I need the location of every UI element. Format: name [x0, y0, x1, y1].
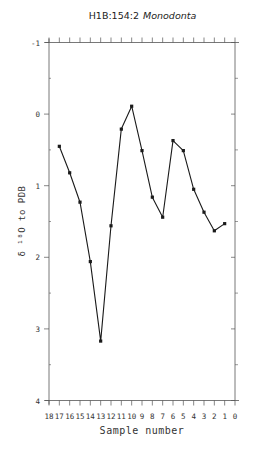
data-point-marker — [68, 171, 71, 174]
data-point-marker — [58, 145, 61, 148]
x-axis-label: Sample number — [100, 425, 185, 436]
x-tick-label: 9 — [140, 412, 145, 421]
x-tick-label: 15 — [75, 412, 84, 421]
y-tick-label: -1 — [31, 39, 40, 48]
x-tick-label: 3 — [202, 412, 207, 421]
data-point-marker — [202, 211, 205, 214]
x-tick-label: 18 — [44, 412, 54, 421]
y-tick-label: 1 — [35, 182, 40, 191]
x-tick-label: 17 — [55, 412, 64, 421]
data-point-marker — [140, 149, 143, 152]
data-series — [58, 105, 227, 343]
data-point-marker — [120, 128, 123, 131]
x-tick-label: 0 — [233, 412, 238, 421]
x-tick-label: 16 — [65, 412, 75, 421]
x-tick-label: 14 — [86, 412, 96, 421]
x-tick-label: 11 — [117, 412, 126, 421]
data-point-marker — [182, 149, 185, 152]
data-point-marker — [130, 105, 133, 108]
x-tick-label: 1 — [222, 412, 227, 421]
x-tick-label: 2 — [212, 412, 217, 421]
data-point-marker — [171, 139, 174, 142]
data-point-marker — [109, 224, 112, 227]
y-tick-label: 0 — [35, 110, 40, 119]
data-point-marker — [192, 188, 195, 191]
data-point-marker — [89, 260, 92, 263]
data-point-marker — [78, 201, 81, 204]
x-tick-label: 12 — [106, 412, 115, 421]
x-tick-label: 4 — [191, 412, 196, 421]
data-point-marker — [223, 222, 226, 225]
y-tick-label: 2 — [35, 253, 40, 262]
y-axis-label: δ ¹⁸O to PDB — [17, 185, 27, 256]
x-tick-label: 10 — [127, 412, 137, 421]
y-tick-label: 4 — [35, 397, 40, 406]
data-point-marker — [213, 229, 216, 232]
x-tick-label: 7 — [160, 412, 165, 421]
x-tick-label: 8 — [150, 412, 155, 421]
data-point-marker — [151, 196, 154, 199]
data-point-marker — [99, 339, 102, 342]
data-line — [59, 106, 224, 341]
tick-labels: 1817161514131211109876543210-101234 — [31, 39, 238, 421]
plot-area: 1817161514131211109876543210-101234 — [0, 0, 262, 458]
x-tick-label: 6 — [171, 412, 176, 421]
data-point-marker — [161, 216, 164, 219]
x-tick-label: 13 — [96, 412, 105, 421]
x-tick-label: 5 — [181, 412, 186, 421]
y-tick-label: 3 — [35, 325, 40, 334]
